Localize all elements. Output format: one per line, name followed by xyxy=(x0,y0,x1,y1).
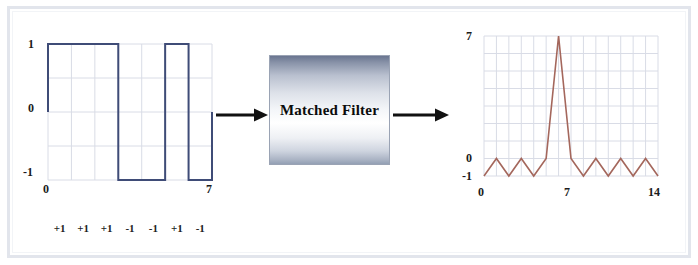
left-ytick-neg1: -1 xyxy=(23,166,33,178)
barker-bit-label: -1 xyxy=(141,222,165,234)
barker-bit-label: -1 xyxy=(118,222,142,234)
right-ytick-neg1: -1 xyxy=(462,170,472,182)
left-xtick-7: 7 xyxy=(206,183,212,195)
matched-filter-label: Matched Filter xyxy=(280,102,379,119)
matched-filter-block[interactable]: Matched Filter xyxy=(269,55,390,165)
output-arrow xyxy=(393,107,449,123)
right-ytick-0: 0 xyxy=(466,152,472,164)
barker-bit-label: +1 xyxy=(48,222,72,234)
barker-code-plot xyxy=(20,28,230,208)
input-arrow xyxy=(216,107,268,123)
autocorrelation-panel: 7 0 -1 0 7 14 xyxy=(462,28,677,218)
right-xtick-0: 0 xyxy=(478,186,484,198)
right-xtick-14: 14 xyxy=(648,186,660,198)
left-ytick-1: 1 xyxy=(28,38,34,50)
barker-bit-label: -1 xyxy=(188,222,212,234)
barker-bit-label: +1 xyxy=(71,222,95,234)
left-xtick-0: 0 xyxy=(43,183,49,195)
barker-bit-label: +1 xyxy=(165,222,189,234)
barker-code-waveform-panel: 1 0 -1 0 7 xyxy=(20,28,230,248)
autocorrelation-plot xyxy=(462,28,677,198)
right-xtick-7: 7 xyxy=(564,186,570,198)
barker-bit-label: +1 xyxy=(95,222,119,234)
matched-filter-figure: 1 0 -1 0 7 +1+1+1-1-1+1-1 Matched Filter… xyxy=(0,0,698,265)
barker-bit-label-row: +1+1+1-1-1+1-1 xyxy=(42,218,232,238)
left-ytick-0: 0 xyxy=(28,102,34,114)
right-ytick-7: 7 xyxy=(466,30,472,42)
